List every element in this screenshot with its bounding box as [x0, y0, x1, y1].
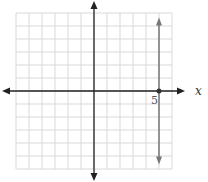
series-arrow-up-icon	[156, 18, 162, 26]
annotation-label: 5	[151, 94, 158, 107]
x-axis-arrow-left-icon	[2, 88, 10, 95]
data-point	[157, 89, 162, 94]
y-axis-arrow-down-icon	[91, 173, 98, 181]
series-arrow-down-icon	[156, 157, 162, 165]
x-axis-arrow-right-icon	[177, 88, 185, 95]
y-axis-arrow-up-icon	[91, 1, 98, 9]
series	[156, 18, 162, 165]
x-axis-label: x	[195, 84, 202, 98]
coordinate-plane: x 5	[0, 0, 208, 182]
